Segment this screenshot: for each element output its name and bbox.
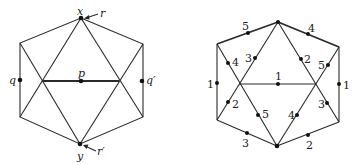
right-hexagon-figure: 5 4 1 1 3 2 1 3 2 4 5 2 3 5 4 (207, 20, 350, 152)
label-top-right: 4 (308, 22, 315, 35)
right-vertex-bottom (275, 144, 280, 149)
dot-lower-right-diag (325, 101, 329, 105)
label-inner-bottom-right: 4 (288, 109, 295, 122)
dot-inner-bottom-left (256, 113, 260, 117)
dot-inner-bottom-right (295, 113, 299, 117)
diagram-canvas: x y p q q′ r r′ 5 4 1 (0, 0, 362, 165)
right-vertex-top (276, 20, 280, 24)
right-diag-top-to-lowerright (278, 22, 339, 122)
label-r: r (100, 7, 106, 20)
left-edge-x-lowerright (81, 18, 143, 117)
dot-bottom-left (245, 131, 249, 135)
dot-upper-left-diag (226, 61, 230, 65)
dot-bottom-right (306, 133, 310, 137)
dot-lower-left-diag (226, 100, 230, 104)
label-top-left: 5 (242, 20, 249, 33)
label-q: q (9, 74, 16, 87)
left-edge-y-upperright (80, 44, 143, 144)
label-upper-right-diag: 5 (318, 59, 325, 72)
left-hexagon-figure: x y p q q′ r r′ (9, 5, 156, 163)
dot-left-side (215, 81, 219, 85)
label-bottom-left: 3 (242, 137, 249, 150)
label-lower-left-diag: 2 (232, 98, 239, 111)
label-bottom-right: 2 (306, 139, 313, 152)
left-edge-y-upperleft (20, 43, 80, 144)
dot-inner-top-right (299, 57, 303, 61)
vertex-y (78, 142, 83, 147)
label-left-side: 1 (207, 78, 214, 91)
label-inner-top-right: 2 (304, 53, 311, 66)
point-q-prime (140, 79, 145, 84)
label-inner-bottom-left: 5 (262, 108, 269, 121)
label-y: y (76, 150, 84, 163)
label-upper-left-diag: 4 (232, 56, 239, 69)
dot-inner-top-left (253, 56, 257, 60)
right-diag-top-to-lowerleft (217, 22, 278, 120)
label-p: p (78, 67, 85, 80)
arrowhead-r-icon (84, 15, 90, 20)
label-q-prime: q′ (146, 74, 156, 87)
label-r-prime: r′ (97, 145, 105, 158)
label-middle: 1 (275, 70, 282, 83)
dot-upper-right-diag (326, 63, 330, 67)
point-q (18, 78, 23, 83)
label-inner-top-left: 3 (245, 52, 252, 65)
dot-right-side (337, 82, 341, 86)
label-lower-right-diag: 3 (318, 98, 325, 111)
left-edge-x-lowerleft (20, 18, 81, 117)
label-right-side: 1 (343, 79, 350, 92)
label-x: x (77, 5, 84, 18)
